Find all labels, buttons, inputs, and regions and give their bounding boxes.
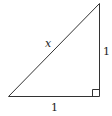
triangle-diagram: x 1 1 (0, 0, 112, 116)
vertical-leg-label: 1 (103, 45, 110, 58)
right-triangle (9, 4, 100, 97)
right-angle-marker (93, 90, 100, 97)
horizontal-leg-label: 1 (51, 101, 58, 114)
hypotenuse-label: x (45, 37, 52, 50)
